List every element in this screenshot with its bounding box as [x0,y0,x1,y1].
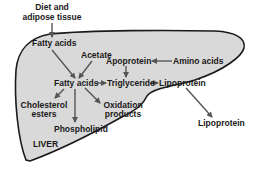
label-phospholipid: Phospholipid [54,124,108,134]
label-products: products [105,109,142,119]
label-fatty-acids-center: Fatty acids [54,78,99,88]
label-liver: LIVER [33,139,58,149]
diagram-svg: Diet and adipose tissue Fatty acids Acet… [0,0,254,185]
label-lipoprotein-outer: Lipoprotein [198,118,245,128]
label-apoprotein: Apoprotein [106,56,151,66]
label-amino-acids: Amino acids [173,56,224,66]
label-triglyceride: Triglyceride [107,78,155,88]
label-lipoprotein-inner: Lipoprotein [159,78,206,88]
label-esters: esters [31,109,56,119]
arrow-lipoprotein-out [186,88,212,117]
label-fatty-acids-top: Fatty acids [32,38,77,48]
label-diet: Diet and [35,2,69,12]
label-adipose: adipose tissue [22,12,81,22]
liver-metabolism-diagram: Diet and adipose tissue Fatty acids Acet… [0,0,254,185]
